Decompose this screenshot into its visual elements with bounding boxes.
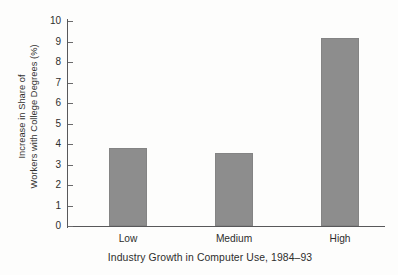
y-tick-mark — [68, 206, 73, 207]
y-tick-label: 6 — [55, 98, 61, 108]
y-axis-title-line-2: Workers with College Degrees (%) — [28, 44, 40, 188]
bar-chart-figure: Increase in Share of Workers with Colleg… — [0, 0, 398, 275]
y-tick-mark — [68, 185, 73, 186]
y-tick-label: 9 — [55, 37, 61, 47]
category-label-high: High — [330, 233, 351, 244]
plot-area: 012345678910 LowMediumHigh — [67, 21, 385, 226]
y-tick-mark — [68, 144, 73, 145]
y-tick-label: 5 — [55, 119, 61, 129]
y-axis-title: Increase in Share of Workers with Colleg… — [0, 0, 56, 232]
x-axis-title-text: Industry Growth in Computer Use, 1984–93 — [108, 252, 312, 263]
y-tick-mark — [68, 124, 73, 125]
y-tick-mark — [68, 62, 73, 63]
y-tick-mark — [68, 83, 73, 84]
y-axis-title-line-1: Increase in Share of — [16, 44, 28, 188]
y-tick-mark — [68, 165, 73, 166]
bar-low — [109, 148, 147, 226]
y-tick-label: 4 — [55, 139, 61, 149]
category-label-medium: Medium — [216, 233, 252, 244]
bar-medium — [215, 153, 253, 226]
y-tick-mark — [68, 21, 73, 22]
y-tick-label: 1 — [55, 201, 61, 211]
x-axis-title: Industry Growth in Computer Use, 1984–93 — [0, 252, 398, 264]
y-tick-mark — [68, 42, 73, 43]
y-tick-label: 0 — [55, 221, 61, 231]
y-tick-label: 2 — [55, 180, 61, 190]
y-tick-mark — [68, 103, 73, 104]
y-tick-label: 3 — [55, 160, 61, 170]
y-tick-mark — [68, 226, 73, 227]
category-label-low: Low — [119, 233, 138, 244]
y-tick-label: 10 — [50, 16, 61, 26]
bar-high — [321, 38, 359, 226]
y-tick-label: 7 — [55, 78, 61, 88]
x-axis-line — [67, 226, 385, 227]
y-tick-label: 8 — [55, 57, 61, 67]
